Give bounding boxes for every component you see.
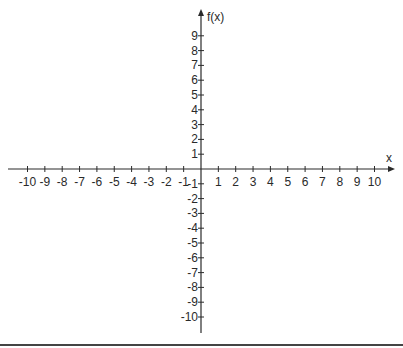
x-tick-label: -8 xyxy=(57,175,68,189)
x-tick-label: -7 xyxy=(74,175,85,189)
y-tick-label: 9 xyxy=(191,29,198,43)
x-tick-label: -5 xyxy=(109,175,120,189)
y-tick-label: 3 xyxy=(191,118,198,132)
x-tick-label: 6 xyxy=(302,175,309,189)
y-tick-label: -10 xyxy=(181,310,199,324)
x-tick-label: 1 xyxy=(215,175,222,189)
x-axis-arrow-icon xyxy=(388,166,395,172)
x-tick-label: 2 xyxy=(232,175,239,189)
x-tick-label: -3 xyxy=(144,175,155,189)
y-tick-label: -9 xyxy=(187,295,198,309)
x-axis-label: x xyxy=(386,151,392,165)
x-tick-label: 5 xyxy=(284,175,291,189)
y-tick-label: -8 xyxy=(187,280,198,294)
y-tick-label: -2 xyxy=(187,192,198,206)
x-tick-label: 3 xyxy=(250,175,257,189)
y-tick-label: 6 xyxy=(191,73,198,87)
y-tick-label: 4 xyxy=(191,103,198,117)
x-tick-label: -9 xyxy=(40,175,51,189)
y-axis-label: f(x) xyxy=(207,10,224,24)
x-tick-label: 10 xyxy=(368,175,382,189)
y-tick-label: -5 xyxy=(187,236,198,250)
y-axis-arrow-icon xyxy=(198,9,204,16)
x-tick-label: -2 xyxy=(161,175,172,189)
coordinate-plane: xf(x)-10-9-8-7-6-5-4-3-2-112345678910987… xyxy=(0,0,403,348)
y-tick-label: 2 xyxy=(191,132,198,146)
y-tick-label: -1 xyxy=(187,177,198,191)
y-tick-label: -7 xyxy=(187,266,198,280)
y-tick-label: -3 xyxy=(187,206,198,220)
x-tick-label: 7 xyxy=(319,175,326,189)
x-tick-label: -6 xyxy=(92,175,103,189)
y-tick-label: -4 xyxy=(187,221,198,235)
x-tick-label: 9 xyxy=(354,175,361,189)
y-tick-label: 7 xyxy=(191,58,198,72)
x-tick-label: -4 xyxy=(126,175,137,189)
x-tick-label: 4 xyxy=(267,175,274,189)
y-tick-label: 5 xyxy=(191,88,198,102)
y-tick-label: 1 xyxy=(191,147,198,161)
x-tick-label: 8 xyxy=(336,175,343,189)
y-tick-label: 8 xyxy=(191,44,198,58)
x-tick-label: -10 xyxy=(19,175,37,189)
y-tick-label: -6 xyxy=(187,251,198,265)
